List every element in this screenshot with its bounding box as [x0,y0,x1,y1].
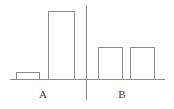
bar-b-1 [98,47,123,80]
group-label-b: B [115,88,129,100]
bar-a-2 [48,11,75,80]
bar-b-2 [130,47,155,80]
plot-area: A B [0,0,174,109]
group-label-a: A [36,88,50,100]
x-axis-baseline [10,79,165,80]
group-divider-line [86,5,87,100]
bar-chart-figure: A B [0,0,174,109]
